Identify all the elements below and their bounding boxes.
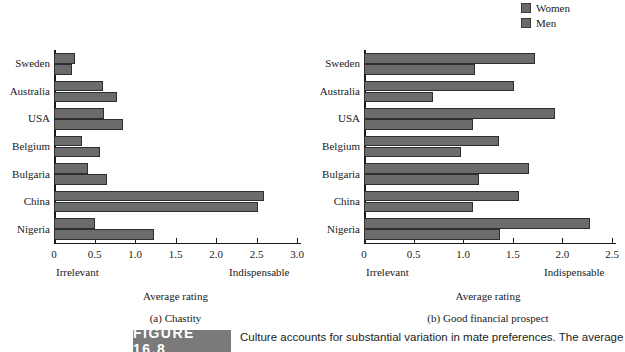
category-label: Belgium (12, 141, 50, 152)
bar-men-china (54, 202, 258, 213)
x-axis-tick-label: 2.5 (250, 249, 264, 260)
bar-women-belgium (364, 136, 499, 147)
x-axis-line (364, 243, 616, 244)
category-label: Nigeria (327, 224, 360, 235)
legend-item-women: Women (521, 2, 570, 14)
chart-panel-chastity: 00.51.01.52.02.53.0SwedenAustraliaUSABel… (0, 40, 318, 340)
legend-swatch-men (521, 18, 531, 28)
legend-item-men: Men (521, 17, 570, 29)
x-axis-tick-label: 3.0 (290, 249, 304, 260)
x-axis-tick-label: 2.0 (556, 249, 570, 260)
bar-women-australia (364, 81, 514, 92)
bar-women-australia (54, 81, 103, 92)
bar-men-sweden (364, 64, 475, 75)
x-axis-tick (176, 238, 177, 243)
x-axis-tick-label: 0 (361, 249, 367, 260)
panel-caption: (a) Chastity (150, 313, 202, 324)
bar-men-nigeria (364, 229, 500, 240)
x-axis-tick (297, 238, 298, 243)
x-axis-tick (257, 238, 258, 243)
bar-men-bulgaria (54, 174, 107, 185)
bar-men-nigeria (54, 229, 154, 240)
bar-men-usa (364, 119, 473, 130)
bar-women-sweden (364, 53, 535, 64)
bar-men-australia (54, 92, 117, 103)
x-axis-tick-label: 2.0 (209, 249, 223, 260)
x-axis-line (54, 243, 301, 244)
bar-men-china (364, 202, 473, 213)
legend-label-men: Men (536, 18, 556, 29)
category-label: USA (28, 113, 50, 124)
axis-anchor-low: Irrelevant (366, 267, 409, 278)
x-axis-tick (513, 238, 514, 243)
legend-label-women: Women (536, 3, 570, 14)
bar-women-sweden (54, 53, 75, 64)
bar-women-usa (54, 108, 104, 119)
bar-men-sweden (54, 64, 72, 75)
x-axis-tick (216, 238, 217, 243)
panel-caption: (b) Good financial prospect (427, 313, 548, 324)
bar-women-nigeria (364, 218, 590, 229)
bar-women-usa (364, 108, 555, 119)
x-axis-tick (562, 238, 563, 243)
bar-women-belgium (54, 136, 82, 147)
axis-anchor-high: Indispensable (229, 267, 289, 278)
category-label: China (334, 196, 360, 207)
category-label: Belgium (322, 141, 360, 152)
bar-women-china (364, 191, 519, 202)
chart-panel-financial-prospect: 00.51.01.52.02.5SwedenAustraliaUSABelgiu… (318, 40, 625, 340)
x-axis-tick-label: 2.5 (605, 249, 619, 260)
category-label: Nigeria (17, 224, 50, 235)
bar-women-bulgaria (54, 163, 88, 174)
x-axis-tick-label: 1.5 (169, 249, 183, 260)
bar-women-nigeria (54, 218, 95, 229)
x-axis-tick (612, 238, 613, 243)
x-axis-tick-label: 0.5 (407, 249, 421, 260)
bar-men-usa (54, 119, 123, 130)
category-label: Sweden (15, 58, 50, 69)
chart-legend: Women Men (521, 2, 570, 29)
category-label: Sweden (325, 58, 360, 69)
legend-swatch-women (521, 3, 531, 13)
x-axis-tick-label: 0 (51, 249, 57, 260)
bar-women-china (54, 191, 264, 202)
category-label: Bulgaria (322, 169, 360, 180)
category-label: China (24, 196, 50, 207)
x-axis-tick-label: 1.5 (506, 249, 520, 260)
x-axis-tick-label: 1.0 (456, 249, 470, 260)
category-label: Bulgaria (12, 169, 50, 180)
x-axis-title: Average rating (143, 291, 208, 302)
bar-men-belgium (364, 147, 461, 158)
bar-men-australia (364, 92, 433, 103)
x-axis-title: Average rating (456, 291, 521, 302)
figure-caption: Culture accounts for substantial variati… (240, 330, 625, 345)
figure-tag: FIGURE 16.8 (133, 330, 231, 352)
bar-men-bulgaria (364, 174, 479, 185)
category-label: USA (338, 113, 360, 124)
category-label: Australia (10, 86, 50, 97)
axis-anchor-high: Indispensable (544, 267, 604, 278)
category-label: Australia (320, 86, 360, 97)
x-axis-tick-label: 1.0 (128, 249, 142, 260)
x-axis-tick-label: 0.5 (88, 249, 102, 260)
bar-men-belgium (54, 147, 100, 158)
axis-anchor-low: Irrelevant (56, 267, 99, 278)
bar-women-bulgaria (364, 163, 529, 174)
